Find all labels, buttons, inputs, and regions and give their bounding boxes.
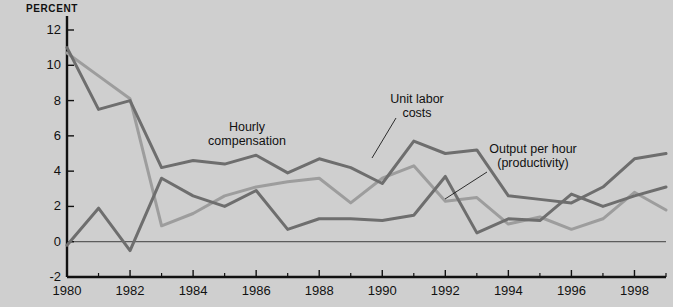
x-axis-tick-label: 1988 — [297, 283, 341, 298]
x-axis-tick-label: 1986 — [234, 283, 278, 298]
y-axis-tick-label: 8 — [27, 93, 61, 108]
x-axis-tick-label: 1980 — [45, 283, 89, 298]
x-axis-tick-label: 1984 — [171, 283, 215, 298]
y-axis-tick-label: -2 — [27, 269, 61, 284]
y-axis-tick-label: 2 — [27, 198, 61, 213]
y-axis-tick-label: 0 — [27, 234, 61, 249]
x-axis-tick-label: 1996 — [549, 283, 593, 298]
y-axis-tick-label: 4 — [27, 163, 61, 178]
y-axis-tick-label: 12 — [27, 22, 61, 37]
annotation-output-per-hour: Output per hour (productivity) — [468, 142, 598, 170]
x-axis-tick-label: 1982 — [108, 283, 152, 298]
leader-line-unit-labor-costs — [372, 118, 396, 158]
x-axis-tick-label: 1992 — [423, 283, 467, 298]
series-line-hourly-compensation — [67, 48, 666, 203]
x-axis-tick-label: 1998 — [612, 283, 656, 298]
x-axis-tick-label: 1994 — [486, 283, 530, 298]
x-axis-tick-label: 1990 — [360, 283, 404, 298]
series-line-output-per-hour-productivity — [67, 176, 666, 250]
y-axis-tick-label: 10 — [27, 57, 61, 72]
chart-container: PERCENT -2024681012 19801982198419861988… — [0, 0, 673, 307]
annotation-unit-labor-costs: Unit labor costs — [372, 92, 462, 120]
y-axis-tick-label: 6 — [27, 128, 61, 143]
annotation-hourly-compensation: Hourly compensation — [192, 120, 302, 148]
